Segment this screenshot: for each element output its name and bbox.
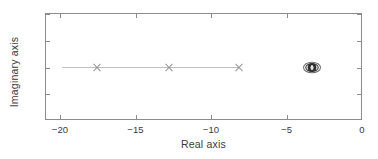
x-axis-title: Real axis xyxy=(45,138,362,150)
plot-area xyxy=(45,13,362,120)
pole-cluster-marker xyxy=(304,62,321,72)
x-tick-0 xyxy=(361,115,362,119)
y-tick-neg10 xyxy=(46,119,50,120)
locus-plot-svg xyxy=(46,14,361,119)
x-tick-label-neg15: −15 xyxy=(127,124,144,135)
x-tick-label-neg5: −5 xyxy=(281,124,292,135)
x-tick-top-0 xyxy=(361,14,362,18)
x-tick-label-neg20: −20 xyxy=(52,124,69,135)
data-layer xyxy=(46,14,361,119)
y-axis-title: Imaginary axis xyxy=(8,22,20,122)
root-locus-figure: 10 5 0 −5 −10 −20 −15 −10 −5 0 Real axis… xyxy=(0,0,378,159)
x-tick-label-0: 0 xyxy=(359,124,364,135)
y-tick-right-neg10 xyxy=(357,119,361,120)
x-tick-label-neg10: −10 xyxy=(203,124,220,135)
